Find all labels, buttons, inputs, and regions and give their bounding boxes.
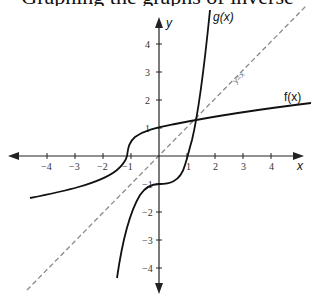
x-tick-label: −3 — [69, 161, 80, 172]
x-axis: −4 −3 −2 −1 1 2 3 4 x — [8, 152, 304, 173]
y-axis-up-arrow-icon — [155, 17, 163, 28]
f-curve — [30, 103, 311, 198]
y-tick-label: 3 — [145, 67, 150, 78]
x-tick-label: −2 — [97, 161, 108, 172]
identity-line — [27, 5, 307, 290]
y-tick-label: −2 — [142, 207, 153, 218]
x-tick-label: −4 — [41, 161, 52, 172]
y-tick-label: 2 — [145, 95, 150, 106]
x-axis-left-arrow-icon — [8, 152, 19, 160]
y-tick-label: 1 — [145, 123, 150, 134]
g-curve — [117, 10, 210, 278]
y-axis-label: y — [165, 16, 173, 30]
f-curve-label: f(x) — [284, 90, 301, 104]
identity-line-label: y=x — [231, 70, 246, 85]
g-curve-label: g(x) — [213, 10, 234, 24]
y-tick-label: −3 — [142, 235, 153, 246]
x-tick-label: 1 — [186, 161, 191, 172]
x-tick-label: 4 — [269, 161, 274, 172]
y-axis-down-arrow-icon — [155, 283, 163, 294]
x-axis-label: x — [296, 159, 304, 173]
y-tick-label: −4 — [142, 263, 153, 274]
x-tick-label: 3 — [241, 161, 246, 172]
x-tick-label: 2 — [213, 161, 218, 172]
y-tick-label: 4 — [145, 39, 150, 50]
graph: −4 −3 −2 −1 1 2 3 4 x 4 3 2 1 −1 −2 −3 −… — [0, 0, 315, 300]
y-axis: 4 3 2 1 −1 −2 −3 −4 y — [142, 16, 173, 294]
